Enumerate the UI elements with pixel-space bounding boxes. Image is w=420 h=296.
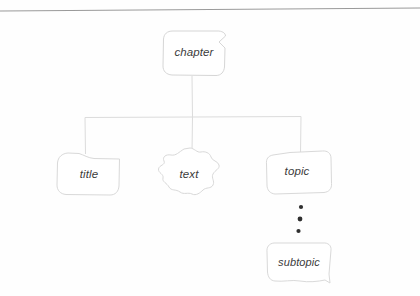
node-label-title: title [64,168,114,180]
diagram-canvas: chapter title text topic subtopic [0,0,420,296]
ellipsis-dot [299,205,303,209]
edge-group [85,76,301,154]
ellipsis-dot [296,229,300,233]
top-rule [0,8,420,11]
node-label-chapter: chapter [166,46,222,58]
edge-drop-text [192,117,193,152]
node-label-text: text [164,168,214,180]
edge-horizontal-bus [85,117,301,118]
ellipsis-dot [298,217,303,222]
node-label-subtopic: subtopic [266,256,332,268]
tree-diagram-graphic [0,0,420,296]
edge-chapter-stem [192,76,193,117]
vertical-ellipsis [296,205,303,233]
node-label-topic: topic [270,165,324,177]
edge-drop-topic [301,117,302,154]
edge-drop-title [85,118,86,155]
